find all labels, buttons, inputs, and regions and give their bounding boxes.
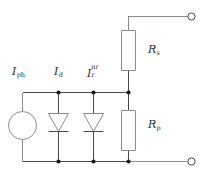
junction-dot-bottom-right-node: [126, 159, 130, 163]
label-shunt-resistance-symbol: R: [148, 118, 156, 131]
label-diode-current: Id: [54, 66, 63, 77]
circuit-diagram: Iph Id Inrr Rs Rp: [0, 0, 211, 181]
diode-recombination-triangle: [84, 114, 104, 132]
junction-dot-top-diode-ideal: [56, 90, 60, 94]
label-series-resistance-subscript: s: [157, 49, 160, 57]
label-diode-current-subscript: d: [59, 71, 63, 79]
current-source-symbol: [9, 112, 37, 140]
label-recombination-current-indices: nrr: [91, 66, 98, 77]
terminal-negative: [188, 158, 195, 165]
current-source-branch: [9, 93, 37, 162]
junction-dot-bottom-diode-ideal: [56, 159, 60, 163]
junction-dot-bottom-diode-recombination: [91, 159, 95, 163]
label-diode-current-symbol: I: [54, 65, 58, 78]
junction-dot-top-right-node: [126, 90, 130, 94]
label-photocurrent-symbol: I: [12, 65, 16, 78]
diode-ideal-branch: [49, 93, 69, 162]
label-recombination-current: Inrr: [87, 66, 98, 79]
diode-recombination-branch: [84, 93, 104, 162]
label-recombination-current-subscript: r: [91, 72, 94, 79]
junction-dot-top-diode-recombination: [91, 90, 95, 94]
label-series-resistance-symbol: R: [148, 43, 156, 56]
label-recombination-current-superscript: nr: [91, 64, 98, 71]
wire-series-resistor-to-top-terminal: [129, 17, 188, 31]
label-photocurrent: Iph: [12, 66, 25, 77]
terminal-positive: [188, 13, 195, 20]
label-shunt-resistance: Rp: [148, 119, 160, 130]
circuit-schematic-canvas: [0, 0, 211, 181]
resistor-shunt-body: [122, 111, 136, 151]
diode-ideal-triangle: [49, 114, 69, 132]
label-shunt-resistance-subscript: p: [157, 124, 161, 132]
label-photocurrent-subscript: ph: [17, 71, 25, 79]
resistor-series-body: [122, 31, 136, 71]
label-series-resistance: Rs: [148, 44, 160, 55]
